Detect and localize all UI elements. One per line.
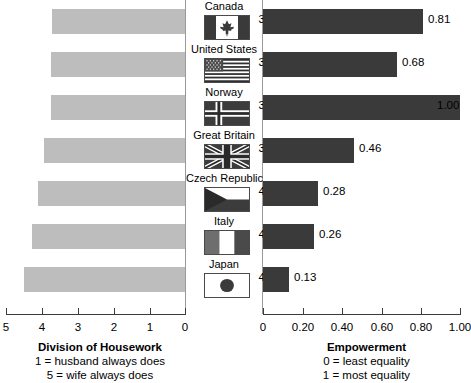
empowerment-bar [263, 181, 318, 206]
right-value-label: 0.26 [319, 228, 341, 241]
right-axis-tick [263, 308, 264, 314]
chart-row: 3.92 Great Britain 0.46 [0, 129, 471, 172]
housework-bar [51, 95, 185, 120]
right-value-label: 0.46 [359, 142, 381, 155]
right-value-label: 1.00 [437, 99, 459, 112]
left-axis-tick-label: 4 [39, 321, 45, 334]
right-value-label: 0.68 [402, 56, 424, 69]
right-axis-tick [382, 308, 383, 314]
right-axis-tick [303, 308, 304, 314]
empowerment-bar [263, 9, 423, 34]
right-axis-tick-label: 0.40 [331, 321, 353, 334]
right-axis-caption: Empowerment 0 = least equality 1 = most … [262, 340, 471, 382]
right-axis-note-2: 1 = most equality [262, 368, 471, 382]
empowerment-bar [263, 224, 314, 249]
left-axis-tick [78, 308, 79, 314]
left-axis-tick [114, 308, 115, 314]
chart-row: 4.07 Czech Republic 0.28 [0, 172, 471, 215]
country-label: Canada [186, 0, 262, 12]
left-axis-note-1: 1 = husband always does [0, 354, 200, 368]
chart-row: 3.72 United States [0, 43, 471, 86]
czech-republic-flag [204, 187, 250, 212]
right-axis-note-1: 0 = least equality [262, 354, 471, 368]
dual-bar-chart: 3.70 Canada 0.81 3.72 United States [0, 0, 471, 383]
right-axis-tick-label: 1.00 [449, 321, 471, 334]
great-britain-flag [204, 144, 250, 169]
left-axis-note-2: 5 = wife always does [0, 368, 200, 382]
country-label: Norway [186, 86, 262, 98]
housework-bar [32, 224, 185, 249]
housework-bar [51, 52, 185, 77]
right-value-label: 0.13 [294, 271, 316, 284]
right-value-label: 0.28 [323, 185, 345, 198]
italy-flag [204, 230, 250, 255]
canada-flag [204, 15, 250, 40]
left-axis-tick-label: 3 [75, 321, 81, 334]
left-axis-tick-label: 1 [147, 321, 153, 334]
country-label: United States [186, 43, 262, 55]
right-axis-tick [460, 308, 461, 314]
right-axis-tick-label: 0 [260, 321, 266, 334]
chart-row: 3.70 Canada 0.81 [0, 0, 471, 43]
housework-bar [44, 138, 185, 163]
left-axis-tick [6, 308, 7, 314]
left-axis-tick-label: 5 [3, 321, 9, 334]
right-value-label: 0.81 [428, 13, 450, 26]
right-axis-tick-label: 0.60 [371, 321, 393, 334]
right-axis-tick-label: 0.20 [292, 321, 314, 334]
country-label: Japan [186, 258, 262, 270]
country-label: Czech Republic [186, 172, 262, 184]
right-axis-title: Empowerment [262, 340, 471, 354]
empowerment-bar [263, 52, 397, 77]
country-label: Great Britain [186, 129, 262, 141]
left-axis-title: Division of Housework [0, 340, 200, 354]
right-axis-line [263, 314, 461, 315]
left-axis-tick-label: 0 [182, 321, 188, 334]
housework-bar [38, 181, 185, 206]
chart-row: 4.49 Japan 0.13 [0, 258, 471, 301]
country-label: Italy [186, 215, 262, 227]
left-axis-caption: Division of Housework 1 = husband always… [0, 340, 200, 382]
left-axis-tick [150, 308, 151, 314]
chart-row: 3.73 Norway 1.00 [0, 86, 471, 129]
right-axis-tick [342, 308, 343, 314]
housework-bar [24, 267, 185, 292]
left-axis-line [6, 314, 186, 315]
left-axis-tick [42, 308, 43, 314]
right-axis-tick [421, 308, 422, 314]
japan-flag [204, 273, 250, 298]
norway-flag [204, 101, 250, 126]
empowerment-bar [263, 95, 460, 120]
empowerment-bar [263, 267, 289, 292]
housework-bar [52, 9, 185, 34]
left-axis-tick-label: 2 [111, 321, 117, 334]
chart-row: 4.24 Italy 0.26 [0, 215, 471, 258]
empowerment-bar [263, 138, 354, 163]
right-axis-tick-label: 0.80 [410, 321, 432, 334]
united-states-flag [204, 58, 250, 83]
left-axis-tick [185, 308, 186, 314]
